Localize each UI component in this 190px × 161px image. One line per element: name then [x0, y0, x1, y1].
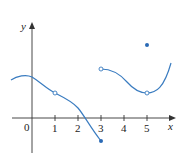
tick-label-3: 3	[98, 122, 104, 134]
y-axis-label: y	[20, 20, 26, 32]
function-graph: y x 0 1 2 3 4 5	[0, 0, 190, 161]
open-point-x3	[99, 67, 103, 71]
open-point-x5	[145, 91, 149, 95]
open-point-x1	[53, 91, 57, 95]
tick-label-5: 5	[144, 122, 150, 134]
x-axis-label: x	[167, 120, 173, 132]
origin-label: 0	[24, 121, 30, 133]
tick-label-4: 4	[121, 122, 127, 134]
y-axis-arrow-icon	[29, 22, 35, 29]
filled-point-x3	[99, 139, 103, 143]
tick-label-2: 2	[75, 122, 81, 134]
tick-label-1: 1	[52, 122, 58, 134]
curve-right-piece	[101, 63, 171, 93]
filled-point-x5	[145, 43, 149, 47]
